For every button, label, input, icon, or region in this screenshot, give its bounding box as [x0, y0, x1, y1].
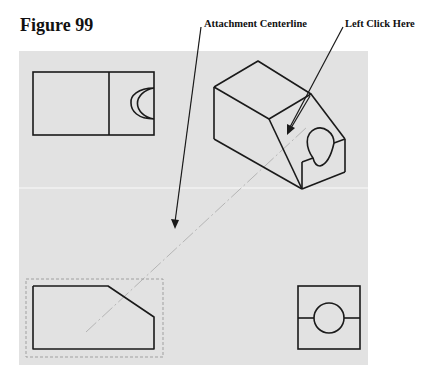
drawing-canvas — [0, 0, 436, 384]
drawing-area — [19, 51, 368, 365]
